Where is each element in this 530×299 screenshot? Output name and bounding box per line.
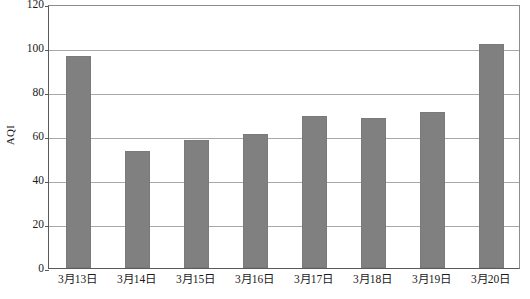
bar	[125, 151, 150, 268]
x-axis-tick-label: 3月16日	[235, 274, 274, 286]
y-axis-tick-label: 40	[14, 175, 44, 187]
y-axis-tick-label: 120	[14, 0, 44, 11]
bar-series	[49, 6, 519, 268]
x-axis-tick-label: 3月19日	[412, 274, 451, 286]
bar	[302, 116, 327, 268]
aqi-bar-chart: AQI 020406080100120 3月13日3月14日3月15日3月16日…	[0, 0, 530, 299]
x-axis-tick-labels: 3月13日3月14日3月15日3月16日3月17日3月18日3月19日3月20日	[48, 272, 520, 294]
bar	[243, 134, 268, 268]
y-axis-tick-labels: 020406080100120	[14, 0, 44, 299]
plot-area	[48, 5, 520, 269]
x-axis-tick-label: 3月13日	[58, 274, 97, 286]
y-axis-tick-label: 80	[14, 87, 44, 99]
bar	[361, 118, 386, 268]
bar	[66, 56, 91, 268]
bar	[420, 112, 445, 268]
x-axis-tick-label: 3月17日	[294, 274, 333, 286]
y-axis-tick-label: 0	[14, 263, 44, 275]
y-axis-tick-label: 20	[14, 219, 44, 231]
y-axis-tick-label: 60	[14, 131, 44, 143]
x-axis-tick-label: 3月20日	[471, 274, 510, 286]
bar	[479, 44, 504, 268]
x-axis-tick-label: 3月14日	[117, 274, 156, 286]
x-axis-tick-label: 3月15日	[176, 274, 215, 286]
y-axis-tick-label: 100	[14, 43, 44, 55]
x-axis-tick-label: 3月18日	[353, 274, 392, 286]
y-axis-tickmark	[45, 270, 49, 271]
bar	[184, 140, 209, 268]
